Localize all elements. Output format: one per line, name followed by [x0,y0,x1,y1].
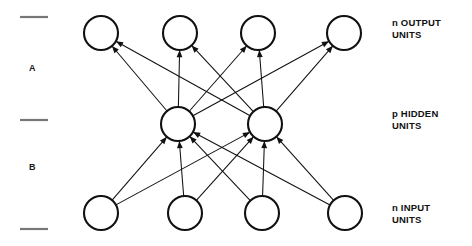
hidden-layer-label-line2: UNITS [392,120,438,132]
hidden-unit-1 [161,107,195,141]
edge-hidden1-output0 [116,41,250,116]
edge-hidden1-output3 [276,46,333,111]
input-unit-2 [168,196,202,230]
unit-nodes [84,16,362,230]
input-unit-1 [84,196,118,230]
edge-input0-hidden0 [112,137,167,200]
network-diagram: A B n OUTPUT UNITS p HIDDEN UNITS n INPU… [0,0,472,246]
region-label-a: A [29,63,36,73]
edge-hidden0-output0 [112,46,167,111]
tick-marks [20,17,48,229]
hidden-unit-2 [248,107,282,141]
connection-edges [112,41,334,205]
input-layer-label-line2: UNITS [392,214,430,226]
input-unit-4 [328,196,362,230]
output-unit-1 [84,16,118,50]
edge-hidden0-output2 [189,46,247,111]
edge-input3-hidden1 [276,137,333,201]
hidden-layer-label-line1: p HIDDEN [392,108,438,120]
edge-hidden0-output1 [177,50,183,107]
edge-input3-hidden0 [193,132,330,205]
output-layer-label-line1: n OUTPUT [392,17,441,29]
output-unit-4 [327,16,361,50]
input-layer-label-line1: n INPUT [392,202,430,214]
hidden-layer-label: p HIDDEN UNITS [392,108,438,131]
output-layer-label: n OUTPUT UNITS [392,17,441,40]
output-layer-label-line2: UNITS [392,29,441,41]
region-label-b: B [29,162,36,172]
edge-hidden1-output1 [192,45,254,111]
output-unit-2 [163,16,197,50]
input-unit-3 [245,196,279,230]
output-unit-3 [241,16,275,50]
input-layer-label: n INPUT UNITS [392,202,430,225]
